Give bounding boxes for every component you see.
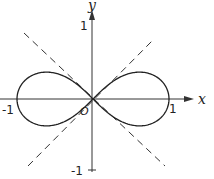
y-tick-label-1: 1 — [80, 19, 88, 33]
x-tick-label-neg1: -1 — [2, 103, 14, 117]
origin-label: O — [80, 105, 89, 118]
lemniscate-diagram: x y 1 -1 -1 1 O — [0, 0, 214, 179]
x-tick-label-1: 1 — [169, 102, 177, 116]
y-axis-label: y — [87, 0, 97, 13]
x-axis-arrow-icon — [184, 96, 194, 102]
y-tick-label-neg1: -1 — [71, 164, 83, 178]
dashed-line-y-x — [28, 40, 153, 166]
x-axis-label: x — [198, 91, 206, 107]
